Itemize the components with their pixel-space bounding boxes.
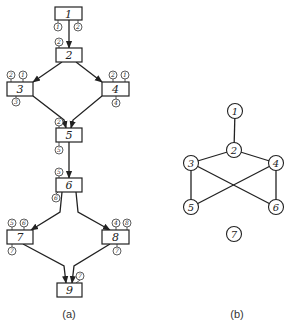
graph-edges (191, 111, 276, 207)
flow-box-8: 8 (102, 230, 129, 244)
port-number: 2 (8, 71, 13, 78)
port-label-box8: 4 (112, 219, 120, 230)
port-number: 7 (78, 272, 82, 279)
port-label-box3: 1 (19, 71, 27, 82)
graph-node-2: 2 (227, 143, 242, 158)
panel-b-caption: (b) (230, 308, 243, 320)
flow-box-4: 4 (102, 82, 129, 96)
port-label-box3: 3 (12, 96, 20, 106)
box-number: 7 (17, 231, 24, 244)
node-number: 6 (273, 202, 280, 213)
flow-edge-6-to-8 (76, 192, 110, 230)
panel-b-graph: 1234567 (b) (184, 104, 284, 321)
port-label-box7: 6 (20, 219, 28, 230)
port-label-box2: 2 (55, 38, 63, 48)
flow-edge-2-to-3 (33, 62, 62, 82)
flow-box-9: 9 (57, 283, 82, 297)
port-number: 5 (57, 168, 61, 175)
port-number: 2 (56, 118, 61, 125)
port-label-box8: 7 (113, 244, 121, 255)
port-label-box7: 5 (8, 219, 16, 230)
panel-a-caption: (a) (62, 308, 75, 320)
flow-box-3: 3 (7, 82, 33, 96)
flow-box-5: 5 (56, 128, 82, 142)
graph-node-3: 3 (184, 156, 199, 171)
flow-box-7: 7 (7, 230, 33, 244)
flow-box-1: 1 (55, 7, 82, 21)
port-label-box4: 4 (112, 96, 120, 107)
port-label-box7: 7 (8, 244, 16, 255)
port-number: 8 (125, 219, 129, 226)
port-label-box1: 2 (74, 20, 82, 31)
port-number: 5 (10, 219, 14, 226)
port-number: 1 (56, 23, 60, 30)
port-number: 6 (54, 194, 58, 201)
port-label-box5: 5 (55, 142, 63, 154)
port-label-box4: 1 (121, 71, 129, 82)
node-number: 4 (272, 158, 279, 169)
box-number: 3 (17, 83, 24, 96)
diagram-canvas: 12221321425565674877 123456789 (a) 12345… (0, 0, 287, 324)
port-number: 5 (57, 146, 61, 153)
flow-edge-2-to-4 (76, 62, 102, 82)
port-label-box4: 2 (109, 71, 117, 82)
port-label-box3: 2 (7, 71, 15, 82)
port-number: 7 (10, 247, 14, 254)
port-label-box5: 2 (55, 118, 63, 128)
box-number: 8 (112, 231, 119, 244)
port-number: 3 (14, 98, 18, 105)
node-number: 1 (232, 106, 238, 117)
graph-node-6: 6 (269, 200, 284, 215)
port-label-box1: 1 (54, 20, 62, 31)
port-label-box9: 7 (76, 272, 84, 283)
box-number: 1 (65, 8, 72, 21)
port-number: 4 (113, 99, 118, 106)
port-number: 4 (113, 219, 118, 226)
graph-node-5: 5 (184, 200, 199, 215)
flow-box-2: 2 (56, 48, 82, 62)
graph-node-1: 1 (228, 104, 243, 119)
flow-edge-7-to-9 (23, 244, 66, 283)
port-number: 7 (115, 247, 119, 254)
port-number: 1 (123, 71, 127, 78)
box-number: 4 (111, 83, 119, 96)
box-number: 5 (66, 129, 73, 142)
box-number: 6 (66, 179, 73, 192)
port-number: 2 (56, 38, 61, 45)
box-number: 2 (65, 49, 73, 62)
port-number: 2 (110, 71, 115, 78)
port-label-box6: 5 (55, 168, 63, 178)
port-number: 2 (75, 23, 80, 30)
node-number: 3 (188, 158, 194, 169)
panel-a-flow-diagram: 12221321425565674877 123456789 (a) (7, 7, 131, 320)
graph-node-7: 7 (227, 227, 242, 242)
flow-box-6: 6 (56, 178, 82, 192)
graph-node-4: 4 (269, 156, 284, 171)
node-number: 7 (231, 229, 238, 240)
graph-nodes: 1234567 (184, 104, 284, 242)
port-number: 6 (22, 219, 26, 226)
node-number: 5 (188, 202, 194, 213)
box-number: 9 (66, 284, 73, 297)
flow-boxes: 123456789 (7, 7, 129, 297)
node-number: 2 (230, 145, 237, 156)
flow-edge-4-to-5 (71, 96, 102, 128)
port-label-box8: 8 (123, 219, 131, 230)
port-label-box6: 6 (52, 192, 60, 202)
port-number: 1 (21, 71, 25, 78)
